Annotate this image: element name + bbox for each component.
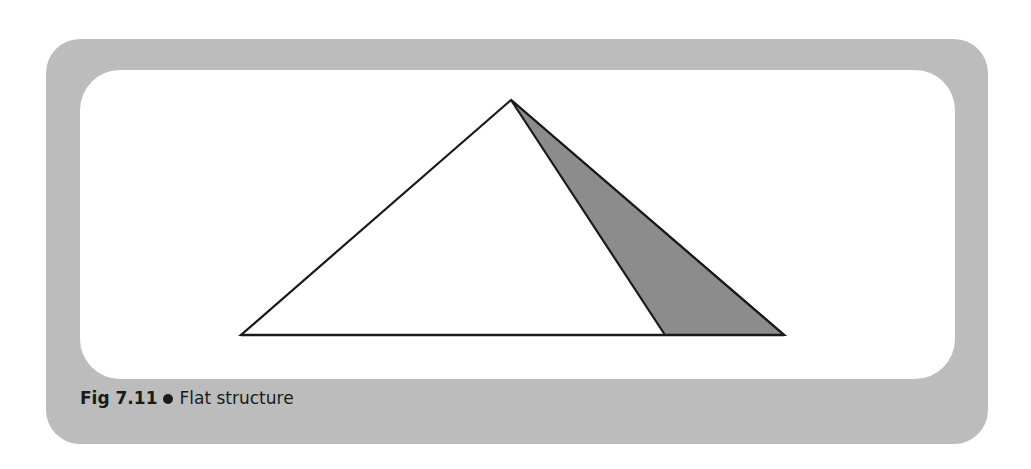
- pyramid-diagram: [0, 0, 1031, 469]
